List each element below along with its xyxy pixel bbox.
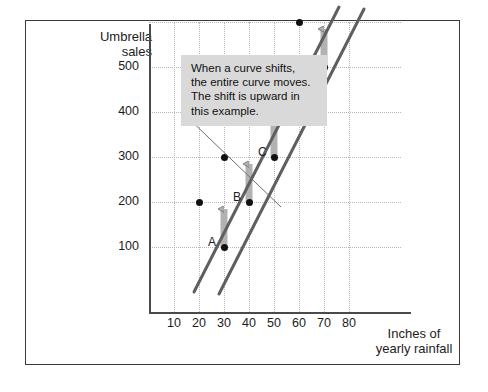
data-point-label-a: A bbox=[208, 235, 216, 249]
callout-line-4: this example. bbox=[191, 104, 319, 118]
y-tick-400: 400 bbox=[93, 104, 147, 118]
y-tick-500: 500 bbox=[93, 59, 147, 73]
y-axis-title-line2: sales bbox=[72, 44, 152, 59]
figure-frame: Umbrella sales Inches of yearly rainfall… bbox=[25, 20, 460, 365]
y-tick-100: 100 bbox=[93, 239, 147, 253]
x-tick-80: 80 bbox=[334, 316, 364, 330]
y-tick-200: 200 bbox=[93, 194, 147, 208]
shifted-point-e[interactable] bbox=[296, 19, 303, 26]
callout-line-2: the entire curve moves. bbox=[191, 75, 319, 89]
y-axis-title: Umbrella sales bbox=[72, 29, 152, 59]
y-tick-300: 300 bbox=[93, 149, 147, 163]
data-point-a[interactable] bbox=[221, 244, 228, 251]
callout-leader-line bbox=[181, 111, 291, 211]
x-axis-title: Inches of yearly rainfall bbox=[364, 326, 464, 356]
x-axis-title-line2: yearly rainfall bbox=[364, 341, 464, 356]
callout-line-1: When a curve shifts, bbox=[191, 61, 319, 75]
y-axis-title-line1: Umbrella bbox=[72, 29, 152, 44]
x-axis-title-line1: Inches of bbox=[364, 326, 464, 341]
callout-line-3: The shift is upward in bbox=[191, 89, 319, 103]
shift-callout-box: When a curve shifts, the entire curve mo… bbox=[181, 55, 327, 126]
